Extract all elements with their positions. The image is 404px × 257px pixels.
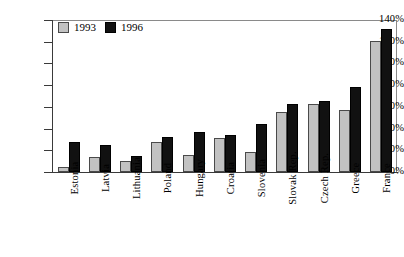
- x-axis-tick-label: Estonia: [69, 162, 80, 195]
- y-axis-tick: [44, 150, 52, 151]
- legend-item-1993: 1993: [58, 22, 96, 33]
- x-axis-tick-label: Czech Rep.: [319, 153, 330, 203]
- y-axis-tick: [44, 42, 52, 43]
- chart-legend: 1993 1996: [58, 22, 143, 33]
- x-axis-label-cell: Slovak Rep.: [272, 176, 303, 254]
- bar-1993: [120, 161, 131, 172]
- x-axis-label-cell: Hungary: [178, 176, 209, 254]
- x-axis-label-cell: Latvia: [84, 176, 115, 254]
- bar-group: [241, 20, 272, 172]
- y-axis-tick: [44, 107, 52, 108]
- x-axis-label-cell: Croatia: [209, 176, 240, 254]
- bar-chart: 140%120%100%80%60%40%20%0% EstoniaLatvia…: [0, 0, 404, 257]
- x-axis-tick-label: Lithuania: [131, 157, 142, 199]
- x-axis-labels: EstoniaLatviaLithuaniaPolandHungaryCroat…: [53, 176, 397, 254]
- bar-group: [147, 20, 178, 172]
- bar-1996: [381, 29, 392, 172]
- bar-group: [366, 20, 397, 172]
- y-axis-tick: [44, 63, 52, 64]
- bar-1993: [276, 112, 287, 172]
- x-axis-tick-label: Slovak Rep.: [287, 151, 298, 205]
- y-axis-tick: [44, 172, 52, 173]
- bar-1993: [89, 157, 100, 172]
- x-axis-tick-label: Slovenia: [256, 159, 267, 197]
- x-axis-label-cell: Lithuania: [116, 176, 147, 254]
- bar-1993: [58, 167, 69, 172]
- legend-swatch-1993-icon: [58, 22, 69, 33]
- bar-1993: [308, 104, 319, 172]
- bar-group: [84, 20, 115, 172]
- bar-1996: [350, 87, 361, 172]
- y-axis-tick: [44, 129, 52, 130]
- bar-group: [334, 20, 365, 172]
- x-axis-tick-label: Hungary: [194, 159, 205, 197]
- x-axis-tick-label: Poland: [162, 163, 173, 193]
- bar-1993: [245, 152, 256, 172]
- x-axis-tick-label: Latvia: [100, 164, 111, 192]
- x-axis-tick-label: Croatia: [225, 162, 236, 194]
- bar-1993: [214, 138, 225, 172]
- bar-group: [53, 20, 84, 172]
- bar-group: [303, 20, 334, 172]
- x-axis-tick-label: France: [381, 163, 392, 193]
- x-axis-label-cell: Czech Rep.: [303, 176, 334, 254]
- x-axis-label-cell: Estonia: [53, 176, 84, 254]
- bar-group: [209, 20, 240, 172]
- bar-1993: [370, 41, 381, 172]
- x-axis-label-cell: Greece: [334, 176, 365, 254]
- bar-group: [272, 20, 303, 172]
- x-axis-tick-label: Greece: [350, 163, 361, 194]
- bar-group: [178, 20, 209, 172]
- bar-1993: [183, 155, 194, 172]
- y-axis-tick: [44, 85, 52, 86]
- legend-label-1996: 1996: [121, 22, 143, 33]
- bars-area: [53, 20, 397, 172]
- bar-1993: [151, 142, 162, 172]
- legend-label-1993: 1993: [74, 22, 96, 33]
- legend-swatch-1996-icon: [105, 22, 116, 33]
- x-axis-label-cell: Slovenia: [241, 176, 272, 254]
- bar-1993: [339, 110, 350, 172]
- x-axis-label-cell: France: [366, 176, 397, 254]
- legend-item-1996: 1996: [105, 22, 143, 33]
- x-axis-label-cell: Poland: [147, 176, 178, 254]
- y-axis-tick: [44, 20, 52, 21]
- bar-group: [116, 20, 147, 172]
